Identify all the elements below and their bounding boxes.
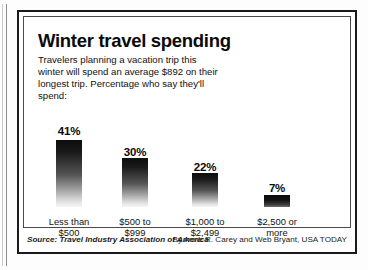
bar-group-2500-or-more: 7% $2,500 or more [246, 113, 308, 241]
bar-2500-or-more [264, 195, 290, 207]
byline: By Anne R. Carey and Web Bryant, USA TOD… [173, 235, 347, 244]
plot-area: 41% Less than $500 30% $500 to $999 [38, 113, 338, 241]
bar-group-500-to-999: 30% $500 to $999 [104, 113, 166, 241]
infographic-inner-border: Winter travel spending Travelers plannin… [23, 16, 351, 228]
bar-value-label: 41% [38, 125, 100, 137]
bar-value-label: 22% [174, 161, 236, 173]
figure-footer: Source: Travel Industry Association of A… [23, 231, 351, 249]
page-margin-rule-outer [2, 4, 3, 266]
bar-value-label: 7% [246, 182, 308, 194]
bar-less-than-500 [56, 140, 82, 207]
bar-category-line-1: $2,500 or [246, 216, 308, 228]
bar-category-line-1: $1,000 to [174, 216, 236, 228]
chart-panel: Winter travel spending Travelers plannin… [24, 17, 350, 227]
page-margin-rule [6, 4, 7, 266]
bar-value-label: 30% [104, 146, 166, 158]
infographic-figure: Winter travel spending Travelers plannin… [17, 10, 357, 254]
bar-group-less-than-500: 41% Less than $500 [38, 113, 100, 241]
page-background: Winter travel spending Travelers plannin… [0, 0, 368, 270]
chart-subtitle: Travelers planning a vacation trip this … [38, 54, 224, 102]
bar-category-line-1: Less than [38, 216, 100, 228]
bar-1000-to-2499 [192, 173, 218, 207]
bar-category-line-1: $500 to [104, 216, 166, 228]
bar-500-to-999 [122, 158, 148, 207]
bar-group-1000-to-2499: 22% $1,000 to $2,499 [174, 113, 236, 241]
chart-title: Winter travel spending [38, 30, 231, 52]
